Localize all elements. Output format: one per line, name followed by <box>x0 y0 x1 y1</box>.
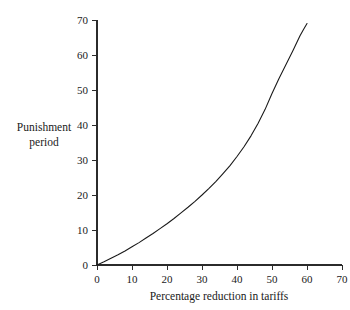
y-axis-title-line2: period <box>29 136 59 149</box>
y-tick-label-30: 30 <box>77 154 89 166</box>
x-tick-label-0: 0 <box>94 273 100 285</box>
x-tick-label-60: 60 <box>302 273 314 285</box>
y-tick-label-10: 10 <box>77 224 89 236</box>
x-tick-label-70: 70 <box>337 273 349 285</box>
chart-canvas: 010203040506070 010203040506070 Percenta… <box>0 0 350 310</box>
x-tick-label-30: 30 <box>197 273 209 285</box>
y-tick-label-50: 50 <box>77 84 89 96</box>
data-curve-punishment-period <box>97 24 307 266</box>
x-tick-label-50: 50 <box>267 273 279 285</box>
y-tick-label-20: 20 <box>77 189 89 201</box>
y-tick-label-0: 0 <box>83 259 89 271</box>
x-tick-label-10: 10 <box>127 273 139 285</box>
x-tick-label-20: 20 <box>162 273 174 285</box>
chart-figure: 010203040506070 010203040506070 Percenta… <box>0 0 350 310</box>
y-tick-label-60: 60 <box>77 49 89 61</box>
y-tick-label-70: 70 <box>77 14 89 26</box>
x-axis-ticks: 010203040506070 <box>94 265 348 285</box>
y-tick-label-40: 40 <box>77 119 89 131</box>
y-axis-title-line1: Punishment <box>17 121 72 133</box>
x-tick-label-40: 40 <box>232 273 244 285</box>
x-axis-title: Percentage reduction in tariffs <box>150 290 289 303</box>
y-axis-ticks: 010203040506070 <box>77 14 97 271</box>
